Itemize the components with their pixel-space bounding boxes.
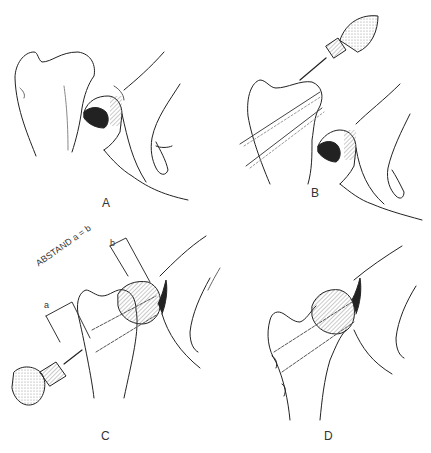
hand-c [160, 236, 210, 368]
illustration-canvas [0, 0, 431, 453]
drill-handle-b [340, 16, 378, 52]
guide-wire-2-d [282, 322, 354, 372]
hand-b [356, 84, 410, 204]
panel-d-drawing [208, 246, 416, 420]
panel-label-b: B [311, 186, 319, 200]
hand-a [122, 52, 180, 182]
mark-b-label: b [110, 238, 115, 248]
guide-wire-1-b [240, 92, 320, 144]
femoral-head-c [118, 282, 161, 325]
hand-d [354, 246, 416, 374]
panel-label-a: A [102, 196, 110, 210]
femoral-head-d [312, 290, 354, 334]
femur-bone-d [268, 306, 316, 420]
mark-a-label: a [44, 300, 49, 310]
panel-label-d: D [324, 429, 333, 443]
femur-bone-a [15, 52, 94, 156]
panel-b-drawing [240, 16, 422, 220]
measure-bracket-b [110, 238, 150, 282]
panel-label-c: C [101, 429, 110, 443]
panel-a-drawing [15, 52, 188, 200]
